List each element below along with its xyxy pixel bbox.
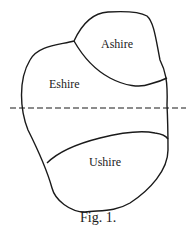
outer-boundary [22, 12, 169, 212]
figure-caption: Fig. 1. [80, 210, 116, 225]
region-label-eshire: Eshire [49, 77, 80, 91]
region-label-ashire: Ashire [101, 37, 133, 51]
region-label-ushire: Ushire [89, 155, 121, 169]
map-figure: Ashire Eshire Ushire Fig. 1. [0, 0, 191, 231]
